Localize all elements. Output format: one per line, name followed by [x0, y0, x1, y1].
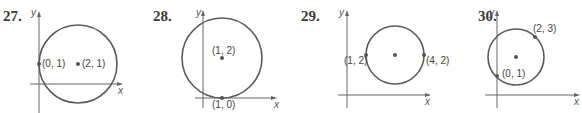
figure-29: 29. y x (1, 2) (4, 2) [298, 0, 448, 113]
center-label: (2, 1) [82, 58, 105, 69]
circle-graph [450, 0, 582, 113]
x-axis-label: x [118, 85, 123, 96]
point-label: (0, 1) [502, 68, 525, 79]
figure-28: 28. y x (1, 2) (1, 0) [150, 0, 290, 113]
x-axis-label: x [425, 96, 430, 107]
point-label: (2, 3) [533, 23, 556, 34]
x-axis-label: x [574, 96, 579, 107]
x-axis-label: x [274, 99, 279, 110]
y-axis-label: y [489, 7, 494, 18]
point-label: (1, 0) [212, 99, 235, 110]
point-label: (4, 2) [426, 55, 449, 66]
figure-30: 30. y x (2, 3) (0, 1) [450, 0, 582, 113]
y-axis-label: y [31, 7, 36, 18]
point-label: (1, 2) [344, 55, 367, 66]
point-label: (0, 1) [42, 58, 65, 69]
circle-graph [150, 0, 290, 113]
figure-27: 27. y x (0, 1) (2, 1) [0, 0, 150, 113]
circle-graph [0, 0, 150, 113]
y-axis-label: y [196, 7, 201, 18]
y-axis-label: y [339, 7, 344, 18]
center-label: (1, 2) [212, 45, 235, 56]
